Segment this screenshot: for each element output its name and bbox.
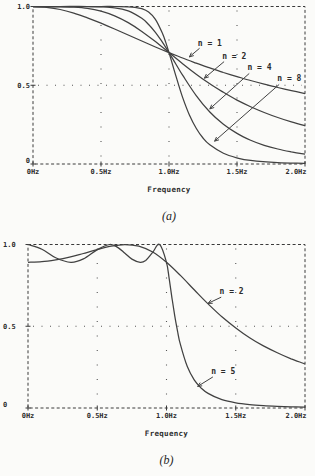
x-tick-label: 1.5Hz bbox=[225, 412, 246, 420]
series-annotation-label: n = 5 bbox=[211, 367, 235, 376]
x-tick-label: 2.0Hz bbox=[285, 412, 306, 420]
y-tick-label: 1.0 bbox=[3, 241, 16, 249]
curve-n-8 bbox=[33, 6, 305, 163]
curve-n-1 bbox=[33, 7, 305, 94]
series-annotation-label: n = 1 bbox=[198, 39, 222, 48]
series-annotation-label: n = 8 bbox=[277, 74, 301, 83]
series-annotation-label: n = 2 bbox=[222, 52, 246, 61]
series-annotation-label: n = 2 bbox=[220, 287, 244, 296]
chart-b-plot: 0Hz0.5Hz1.0Hz1.5Hz2.0Hz00.51.0n = 2n = 5 bbox=[0, 230, 315, 476]
x-tick-label: 0Hz bbox=[22, 412, 35, 420]
y-tick-label: 1.0 bbox=[17, 3, 30, 11]
x-tick-label: 1.0Hz bbox=[158, 168, 179, 176]
x-tick-label: 1.0Hz bbox=[156, 412, 177, 420]
y-tick-label: 0.5 bbox=[3, 323, 16, 331]
annotation-arrow-shaft bbox=[204, 62, 224, 79]
annotation-arrow-shaft bbox=[198, 377, 213, 386]
figure-panel-a: 0Hz0.5Hz1.0Hz1.5Hz2.0Hz00.51.0n = 1n = 2… bbox=[0, 0, 315, 230]
series-annotation-label: n = 4 bbox=[247, 63, 271, 72]
curve-n-4 bbox=[33, 6, 305, 154]
figure-panel-b: 0Hz0.5Hz1.0Hz1.5Hz2.0Hz00.51.0n = 2n = 5… bbox=[0, 230, 315, 476]
chart-a-plot: 0Hz0.5Hz1.0Hz1.5Hz2.0Hz00.51.0n = 1n = 2… bbox=[0, 0, 315, 230]
scanned-figure-page: 0Hz0.5Hz1.0Hz1.5Hz2.0Hz00.51.0n = 1n = 2… bbox=[0, 0, 315, 476]
x-axis-title-b: Frequency bbox=[28, 429, 305, 438]
y-tick-label: 0 bbox=[3, 401, 7, 409]
x-axis-title-a: Frequency bbox=[33, 185, 305, 194]
x-tick-label: 1.5Hz bbox=[226, 168, 247, 176]
figure-caption-b: (b) bbox=[28, 453, 305, 468]
x-tick-label: 0.5Hz bbox=[87, 412, 108, 420]
y-tick-label: 0 bbox=[26, 157, 30, 165]
y-tick-label: 0.5 bbox=[17, 82, 30, 90]
figure-caption-a: (a) bbox=[33, 209, 305, 224]
plot-border bbox=[33, 7, 305, 165]
x-tick-label: 0Hz bbox=[27, 168, 40, 176]
x-tick-label: 0.5Hz bbox=[90, 168, 111, 176]
x-tick-label: 2.0Hz bbox=[285, 168, 306, 176]
